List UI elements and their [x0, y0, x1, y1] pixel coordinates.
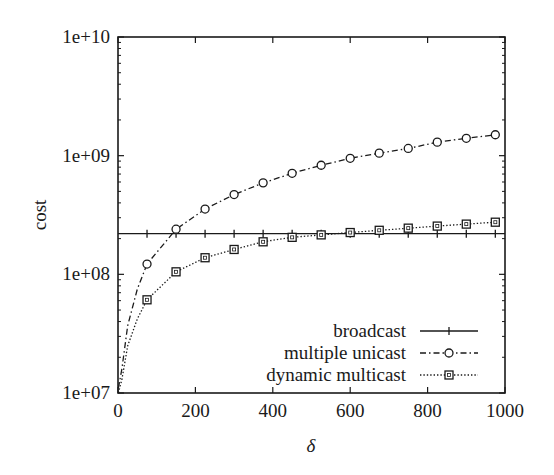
circle-marker [404, 144, 412, 152]
y-tick-label: 1e+09 [62, 145, 110, 166]
legend: broadcast multiple unicast dynamic multi… [266, 320, 478, 385]
circle-marker [445, 349, 453, 357]
circle-marker [259, 179, 267, 187]
circle-marker [433, 138, 441, 146]
square-marker [462, 220, 470, 228]
circle-marker [346, 154, 354, 162]
circle-marker [143, 260, 151, 268]
square-marker [201, 254, 209, 262]
x-tick-label: 800 [413, 400, 442, 421]
x-tick-label: 200 [181, 400, 210, 421]
x-axis-label: δ [307, 435, 317, 456]
x-tick-label: 600 [336, 400, 365, 421]
square-marker [433, 222, 441, 230]
circle-marker [462, 134, 470, 142]
square-marker [375, 226, 383, 234]
circle-marker [375, 149, 383, 157]
square-marker [317, 231, 325, 239]
x-tick-label: 1000 [486, 400, 524, 421]
y-axis-label: cost [29, 199, 50, 230]
square-marker [288, 233, 296, 241]
circle-marker [317, 161, 325, 169]
legend-samples [420, 327, 478, 379]
plot-border [118, 37, 505, 393]
y-tick-label: 1e+08 [62, 263, 110, 284]
plot-frame [118, 37, 505, 393]
circle-marker [201, 205, 209, 213]
square-marker [259, 238, 267, 246]
square-marker [445, 371, 453, 379]
square-marker [491, 218, 499, 226]
legend-label-multiple-unicast: multiple unicast [284, 342, 407, 363]
legend-label-dynamic-multicast: dynamic multicast [266, 364, 407, 385]
y-tick-label: 1e+07 [62, 382, 110, 403]
circle-marker [230, 191, 238, 199]
square-marker [230, 245, 238, 253]
y-tick-label: 1e+10 [62, 26, 110, 47]
x-tick-label: 0 [113, 400, 123, 421]
x-tick-label: 400 [259, 400, 288, 421]
circle-marker [491, 131, 499, 139]
circle-marker [288, 169, 296, 177]
square-marker [172, 268, 180, 276]
square-marker [143, 296, 151, 304]
line-chart: 1e+071e+081e+091e+10 02004006008001000 c… [0, 0, 554, 475]
square-marker [346, 229, 354, 237]
square-marker [404, 224, 412, 232]
legend-label-broadcast: broadcast [333, 320, 407, 341]
circle-marker [172, 225, 180, 233]
